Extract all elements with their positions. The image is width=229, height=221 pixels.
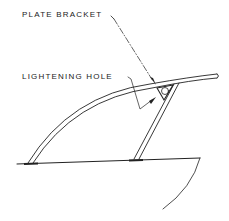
base-plate-left: [24, 163, 38, 166]
strut: [134, 83, 179, 159]
plate-bracket-label: PLATE BRACKET: [22, 10, 102, 19]
bracket-drawing: PLATE BRACKET LIGHTENING HOLE: [0, 0, 229, 221]
plate-bracket-leader: [111, 16, 156, 85]
deck-line: [17, 158, 200, 164]
base-plate-right: [129, 159, 143, 162]
lightening-hole-label: LIGHTENING HOLE: [22, 72, 113, 81]
lightening-hole: [162, 88, 169, 95]
lightening-hole-leader: [128, 77, 156, 109]
arrowhead-icon: [149, 97, 156, 104]
plate-bracket: [157, 85, 173, 100]
hull-curve: [163, 158, 200, 209]
curved-tube: [28, 74, 219, 163]
